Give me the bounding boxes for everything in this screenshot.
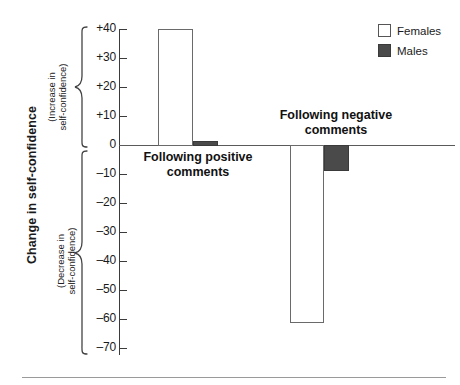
y-axis-line — [119, 29, 120, 355]
y-axis-title: Change in self-confidence — [25, 65, 39, 305]
group-label-negative-line1: Following negative — [280, 108, 393, 122]
legend-item-males: Males — [378, 42, 441, 59]
y-tick-label-0: 0 — [80, 137, 116, 151]
y-tick-label-20: +20 — [80, 79, 116, 93]
bar-males-positive — [193, 141, 218, 146]
increase-note: (Increase in self-confidence) — [46, 37, 68, 157]
y-tick-30 — [119, 58, 127, 59]
legend-label-females: Females — [397, 25, 441, 37]
y-tick-label-10: +10 — [80, 108, 116, 122]
decrease-note-line1: (Decrease in — [55, 234, 66, 288]
y-tick-label-n60: –60 — [80, 311, 116, 325]
y-tick-20 — [119, 87, 127, 88]
legend-item-females: Females — [378, 22, 441, 39]
y-tick-n50 — [119, 290, 127, 291]
y-tick-label-n50: –50 — [80, 282, 116, 296]
y-tick-n60 — [119, 319, 127, 320]
bar-males-negative — [324, 145, 349, 171]
y-tick-label-n40: –40 — [80, 253, 116, 267]
y-tick-label-30: +30 — [80, 50, 116, 64]
bar-females-positive — [158, 29, 193, 146]
open-square-swatch-icon — [378, 24, 391, 37]
increase-note-line2: self-confidence) — [57, 63, 68, 130]
y-tick-n40 — [119, 261, 127, 262]
increase-note-line1: (Increase in — [46, 72, 57, 122]
group-label-negative: Following negative comments — [260, 108, 412, 138]
y-tick-label-40: +40 — [80, 21, 116, 35]
y-tick-label-n70: –70 — [80, 340, 116, 354]
y-tick-n70 — [119, 348, 127, 349]
y-tick-label-n30: –30 — [80, 224, 116, 238]
y-tick-10 — [119, 116, 127, 117]
y-tick-40 — [119, 29, 127, 30]
y-tick-n20 — [119, 203, 127, 204]
chart-figure: Change in self-confidence (Increase in s… — [0, 0, 460, 385]
bar-females-negative — [290, 145, 324, 323]
legend-label-males: Males — [397, 45, 428, 57]
bottom-divider — [22, 377, 446, 378]
group-label-positive: Following positive comments — [125, 150, 271, 180]
legend: Females Males — [378, 22, 441, 62]
y-tick-n30 — [119, 232, 127, 233]
group-label-negative-line2: comments — [305, 123, 368, 137]
y-tick-label-n10: –10 — [80, 166, 116, 180]
group-label-positive-line2: comments — [167, 165, 230, 179]
y-tick-label-n20: –20 — [80, 195, 116, 209]
group-label-positive-line1: Following positive — [143, 150, 252, 164]
filled-square-swatch-icon — [378, 44, 391, 57]
